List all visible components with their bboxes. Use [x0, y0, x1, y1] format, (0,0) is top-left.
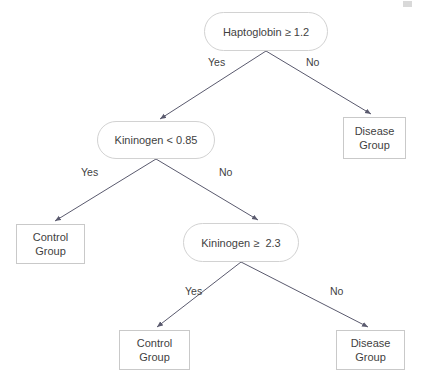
edge-label-kininogen-high-no: No [330, 285, 343, 297]
edge-kininogen-low-to-control [55, 159, 156, 221]
scan-artifact [403, 1, 412, 7]
leaf-control-left-line1: Control [33, 230, 68, 244]
leaf-control-left-line2: Group [35, 244, 66, 258]
edge-label-kininogen-high-yes: Yes [185, 285, 202, 297]
node-kininogen-high[interactable]: Kininogen ≥ 2.3 [183, 223, 299, 262]
leaf-control-group-left[interactable]: Control Group [16, 224, 85, 264]
edge-label-root-no: No [306, 56, 319, 68]
leaf-disease-group-right[interactable]: Disease Group [343, 117, 406, 159]
leaf-control-bottom-line1: Control [137, 336, 172, 350]
leaf-control-group-bottom[interactable]: Control Group [119, 330, 190, 370]
node-kininogen-high-label: Kininogen ≥ 2.3 [201, 236, 280, 250]
edge-kininogen-high-to-disease [241, 262, 368, 327]
edge-label-kininogen-low-no: No [219, 166, 232, 178]
node-kininogen-low-label: Kininogen < 0.85 [115, 133, 198, 147]
node-root-label: Haptoglobin ≥ 1.2 [223, 25, 309, 39]
leaf-disease-bottom-line1: Disease [351, 336, 391, 350]
edge-label-kininogen-low-yes: Yes [81, 166, 98, 178]
node-kininogen-low[interactable]: Kininogen < 0.85 [97, 121, 215, 159]
node-root-haptoglobin[interactable]: Haptoglobin ≥ 1.2 [204, 12, 328, 51]
edge-label-root-yes: Yes [208, 56, 225, 68]
leaf-disease-group-bottom[interactable]: Disease Group [336, 330, 405, 370]
decision-tree-diagram: Haptoglobin ≥ 1.2 Kininogen < 0.85 Disea… [0, 0, 432, 380]
leaf-disease-bottom-line2: Group [355, 350, 386, 364]
edge-kininogen-low-to-kininogen-high [156, 159, 258, 220]
leaf-disease-right-line2: Group [359, 138, 390, 152]
leaf-disease-right-line1: Disease [355, 124, 395, 138]
leaf-control-bottom-line2: Group [139, 350, 170, 364]
